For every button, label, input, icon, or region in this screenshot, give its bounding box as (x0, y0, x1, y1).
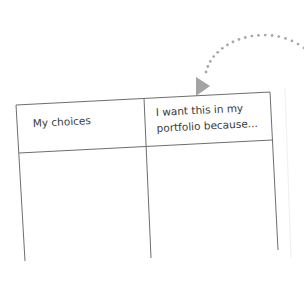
dotted-arrow-trail (205, 34, 304, 74)
arrow-dot (238, 38, 241, 41)
header-cell-portfolio-reason: I want this in my portfolio because... (155, 101, 257, 134)
portfolio-table: My choices I want this in my portfolio b… (16, 92, 278, 261)
arrow-dot (205, 71, 208, 74)
dotted-arrow (196, 34, 304, 96)
arrow-dot (232, 41, 235, 44)
arrow-dot (250, 35, 253, 38)
paper-shadow-edge (285, 88, 291, 258)
arrow-dot (206, 65, 209, 68)
arrow-dot (216, 51, 219, 54)
arrow-dot (271, 34, 274, 37)
arrow-dot (291, 40, 294, 43)
header-label-line-1: I want this in my (155, 102, 243, 118)
arrow-dot (303, 47, 304, 50)
arrow-dot (209, 60, 212, 63)
arrow-dot (221, 47, 224, 50)
arrow-dot (212, 55, 215, 58)
arrow-dot (264, 34, 267, 37)
arrow-dot (284, 37, 287, 40)
arrow-dot (257, 34, 260, 37)
header-label: My choices (32, 114, 91, 129)
arrow-dot (297, 43, 300, 46)
header-cell-my-choices: My choices (32, 114, 91, 129)
body-cell-portfolio-reason[interactable] (146, 140, 278, 258)
body-cell-my-choices[interactable] (19, 146, 151, 261)
worksheet-diagram: My choices I want this in my portfolio b… (0, 0, 304, 285)
header-label-line-2: portfolio because... (156, 117, 258, 134)
arrow-dot (226, 44, 229, 47)
arrow-dot (244, 36, 247, 39)
arrow-dot (277, 35, 280, 38)
arrowhead-icon (196, 77, 210, 96)
